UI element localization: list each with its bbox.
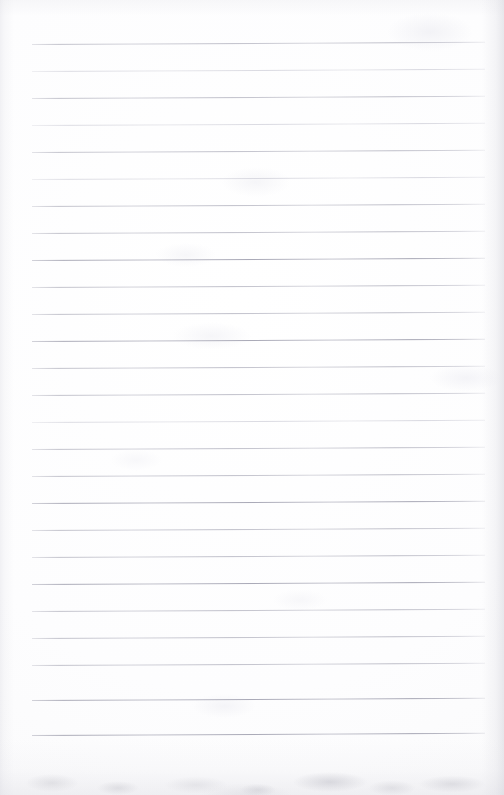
rule-line	[32, 204, 485, 207]
rule-line	[32, 339, 485, 342]
rule-line	[32, 555, 485, 558]
rule-line	[32, 609, 485, 612]
ruled-lines-layer	[0, 0, 504, 795]
rule-line	[32, 96, 485, 99]
rule-line	[32, 663, 485, 666]
rule-line	[32, 258, 485, 261]
rule-line	[32, 42, 485, 45]
rule-line	[32, 393, 485, 396]
scanned-page	[0, 0, 504, 795]
rule-line	[32, 150, 485, 153]
rule-line	[32, 366, 485, 369]
rule-line	[32, 420, 485, 423]
rule-line	[32, 123, 485, 126]
rule-line	[32, 636, 485, 639]
rule-line	[32, 582, 485, 585]
rule-line	[32, 474, 485, 477]
rule-line	[32, 312, 485, 315]
rule-line	[32, 285, 485, 288]
rule-line	[32, 231, 485, 234]
rule-line	[32, 447, 485, 450]
rule-line	[32, 69, 485, 72]
rule-line	[32, 501, 485, 504]
rule-line	[32, 698, 485, 701]
rule-line	[32, 177, 485, 180]
rule-line	[32, 528, 485, 531]
rule-line	[32, 733, 485, 736]
